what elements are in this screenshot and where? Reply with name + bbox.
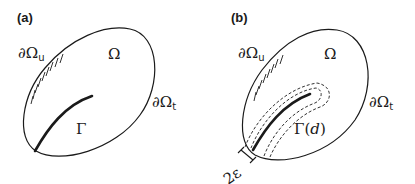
boundary-u-label-b: ∂Ωu <box>238 44 265 63</box>
panel-b: (b) 2ε ∂Ωu <box>220 10 393 184</box>
width-2epsilon-label: 2ε <box>220 163 245 184</box>
domain-omega-label-b: Ω <box>324 45 336 63</box>
panel-a: (a) ∂Ωu Ω ∂Ωt Γ <box>17 10 176 156</box>
domain-omega-label-a: Ω <box>108 45 120 63</box>
panel-a-label: (a) <box>17 10 33 25</box>
panel-b-label: (b) <box>231 10 248 25</box>
boundary-t-label-a: ∂Ωt <box>152 93 176 112</box>
boundary-t-label-b: ∂Ωt <box>369 93 393 112</box>
crack-gamma-d-label-b: Γ(d) <box>294 120 326 138</box>
boundary-u-label-a: ∂Ωu <box>18 44 45 63</box>
crack-gamma-label-a: Γ <box>76 120 86 138</box>
diagram-canvas: (a) ∂Ωu Ω ∂Ωt Γ (b) <box>0 0 415 184</box>
